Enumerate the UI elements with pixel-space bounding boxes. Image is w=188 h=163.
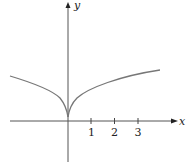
x-axis-arrow-icon <box>171 119 178 124</box>
y-axis-label: y <box>73 0 81 12</box>
y-axis-arrow-icon <box>66 2 71 8</box>
tick-label-1: 1 <box>88 126 95 139</box>
curve-left-branch <box>10 76 68 117</box>
curve-right-branch <box>68 70 160 117</box>
chart-canvas: x y 1 2 3 <box>0 0 188 163</box>
x-axis-label: x <box>179 115 186 128</box>
tick-label-3: 3 <box>135 126 142 139</box>
tick-label-2: 2 <box>111 126 118 139</box>
